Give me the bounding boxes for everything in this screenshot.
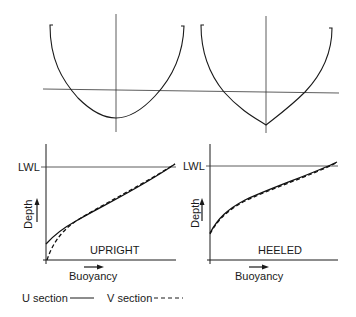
graph-heeled: LWL Depth HEELED Buoyancy — [183, 144, 338, 282]
legend-u-label: U section — [22, 292, 68, 304]
buoyancy-arrow-icon — [84, 265, 104, 270]
u-section-curve-upright — [46, 164, 175, 244]
hull-buoyancy-diagram: LWL Depth UPRIGHT Buoyancy LWL Depth — [0, 0, 356, 317]
v-hull-outline — [201, 25, 332, 125]
v-section-curve-heeled — [210, 163, 336, 234]
buoyancy-arrow-icon — [249, 265, 269, 270]
depth-arrow-icon — [35, 198, 40, 222]
depth-label: Depth — [22, 200, 34, 229]
graph-upright: LWL Depth UPRIGHT Buoyancy — [18, 144, 176, 282]
legend: U section V section — [22, 292, 183, 304]
u-hull-outline — [50, 25, 184, 118]
lwl-label: LWL — [18, 161, 40, 173]
heeled-label: HEELED — [258, 244, 302, 256]
waterline — [43, 89, 339, 93]
hull-sections — [43, 14, 339, 133]
u-section-hull — [50, 14, 184, 132]
buoyancy-label: Buoyancy — [69, 270, 118, 282]
depth-label: Depth — [189, 199, 201, 228]
legend-v-label: V section — [107, 292, 152, 304]
buoyancy-label: Buoyancy — [235, 270, 284, 282]
lwl-label: LWL — [183, 160, 205, 172]
upright-label: UPRIGHT — [90, 244, 140, 256]
u-section-curve-heeled — [210, 162, 337, 233]
v-section-hull — [201, 16, 332, 133]
